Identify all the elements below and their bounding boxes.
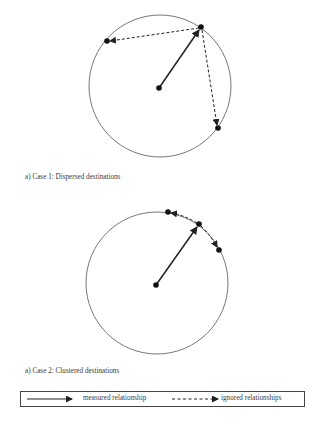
case2-caption: a) Case 2: Clustered destinations	[25, 367, 119, 375]
case1-figure	[89, 15, 231, 157]
case1-origin-point	[156, 85, 162, 91]
case1-measured-destination	[198, 24, 204, 30]
case2-measured-destination	[196, 221, 202, 227]
case1-ignored-destination-right	[215, 125, 221, 131]
case1-ignored-destination-left	[104, 38, 110, 44]
diagram-canvas	[0, 0, 322, 424]
case1-measured-arrow	[159, 30, 199, 88]
legend-measured-label: measured relationship	[83, 394, 146, 402]
case1-ignored-arrow-down	[202, 30, 217, 125]
case2-origin-point	[153, 282, 159, 288]
case1-ignored-arrow-left	[110, 28, 199, 41]
legend-ignored-label: ignored relationships	[221, 394, 281, 402]
case2-figure	[86, 209, 228, 354]
case1-caption: a) Case 1: Dispersed destinations	[25, 173, 120, 181]
case2-ignored-destination-right	[216, 247, 222, 253]
case2-ignored-destination-top	[165, 209, 171, 215]
case2-measured-arrow	[156, 227, 197, 285]
